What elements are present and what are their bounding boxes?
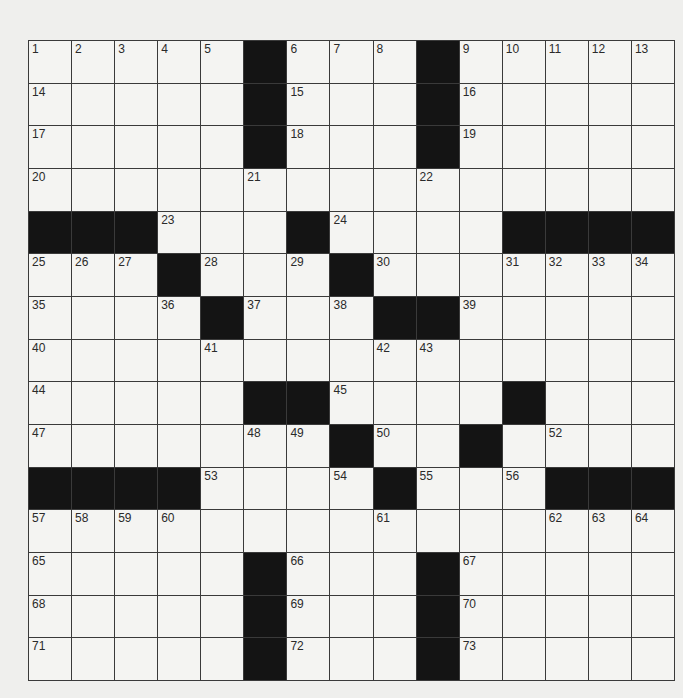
- grid-cell[interactable]: [460, 340, 502, 382]
- grid-cell[interactable]: [632, 340, 674, 382]
- grid-cell[interactable]: [115, 638, 157, 680]
- grid-cell[interactable]: [632, 553, 674, 595]
- grid-cell[interactable]: [503, 425, 545, 467]
- grid-cell[interactable]: 31: [503, 254, 545, 296]
- grid-cell[interactable]: 65: [29, 553, 71, 595]
- grid-cell[interactable]: [589, 382, 631, 424]
- grid-cell[interactable]: [503, 169, 545, 211]
- grid-cell[interactable]: [115, 297, 157, 339]
- grid-cell[interactable]: [632, 84, 674, 126]
- grid-cell[interactable]: [115, 596, 157, 638]
- grid-cell[interactable]: [72, 126, 114, 168]
- grid-cell[interactable]: [201, 638, 243, 680]
- grid-cell[interactable]: [503, 84, 545, 126]
- grid-cell[interactable]: 37: [244, 297, 286, 339]
- grid-cell[interactable]: [460, 254, 502, 296]
- grid-cell[interactable]: [115, 169, 157, 211]
- grid-cell[interactable]: [201, 553, 243, 595]
- grid-cell[interactable]: [201, 169, 243, 211]
- grid-cell[interactable]: 73: [460, 638, 502, 680]
- grid-cell[interactable]: [330, 126, 372, 168]
- grid-cell[interactable]: 16: [460, 84, 502, 126]
- grid-cell[interactable]: [201, 510, 243, 552]
- grid-cell[interactable]: [158, 553, 200, 595]
- grid-cell[interactable]: 28: [201, 254, 243, 296]
- grid-cell[interactable]: [589, 596, 631, 638]
- grid-cell[interactable]: 48: [244, 425, 286, 467]
- grid-cell[interactable]: 29: [287, 254, 329, 296]
- grid-cell[interactable]: 53: [201, 468, 243, 510]
- grid-cell[interactable]: [287, 169, 329, 211]
- grid-cell[interactable]: [330, 553, 372, 595]
- grid-cell[interactable]: 22: [417, 169, 459, 211]
- grid-cell[interactable]: 35: [29, 297, 71, 339]
- grid-cell[interactable]: [330, 169, 372, 211]
- grid-cell[interactable]: [201, 212, 243, 254]
- grid-cell[interactable]: [460, 468, 502, 510]
- grid-cell[interactable]: [503, 638, 545, 680]
- grid-cell[interactable]: [546, 297, 588, 339]
- grid-cell[interactable]: 54: [330, 468, 372, 510]
- grid-cell[interactable]: 52: [546, 425, 588, 467]
- grid-cell[interactable]: [158, 169, 200, 211]
- grid-cell[interactable]: 61: [374, 510, 416, 552]
- grid-cell[interactable]: [589, 84, 631, 126]
- grid-cell[interactable]: [589, 638, 631, 680]
- grid-cell[interactable]: 1: [29, 41, 71, 83]
- grid-cell[interactable]: [158, 425, 200, 467]
- grid-cell[interactable]: 38: [330, 297, 372, 339]
- grid-cell[interactable]: 11: [546, 41, 588, 83]
- grid-cell[interactable]: [546, 596, 588, 638]
- grid-cell[interactable]: [287, 340, 329, 382]
- grid-cell[interactable]: 66: [287, 553, 329, 595]
- grid-cell[interactable]: 9: [460, 41, 502, 83]
- grid-cell[interactable]: [632, 638, 674, 680]
- grid-cell[interactable]: 57: [29, 510, 71, 552]
- grid-cell[interactable]: [460, 382, 502, 424]
- grid-cell[interactable]: [632, 126, 674, 168]
- grid-cell[interactable]: [330, 84, 372, 126]
- grid-cell[interactable]: [460, 510, 502, 552]
- grid-cell[interactable]: [589, 126, 631, 168]
- grid-cell[interactable]: [632, 297, 674, 339]
- grid-cell[interactable]: 13: [632, 41, 674, 83]
- grid-cell[interactable]: 68: [29, 596, 71, 638]
- grid-cell[interactable]: 64: [632, 510, 674, 552]
- grid-cell[interactable]: [632, 596, 674, 638]
- grid-cell[interactable]: 36: [158, 297, 200, 339]
- grid-cell[interactable]: [632, 169, 674, 211]
- grid-cell[interactable]: 7: [330, 41, 372, 83]
- grid-cell[interactable]: [589, 169, 631, 211]
- grid-cell[interactable]: 4: [158, 41, 200, 83]
- grid-cell[interactable]: [158, 84, 200, 126]
- grid-cell[interactable]: 2: [72, 41, 114, 83]
- grid-cell[interactable]: [287, 510, 329, 552]
- grid-cell[interactable]: [374, 382, 416, 424]
- grid-cell[interactable]: 30: [374, 254, 416, 296]
- grid-cell[interactable]: [115, 382, 157, 424]
- grid-cell[interactable]: 19: [460, 126, 502, 168]
- grid-cell[interactable]: [201, 126, 243, 168]
- grid-cell[interactable]: 55: [417, 468, 459, 510]
- grid-cell[interactable]: 69: [287, 596, 329, 638]
- grid-cell[interactable]: [72, 553, 114, 595]
- grid-cell[interactable]: 72: [287, 638, 329, 680]
- grid-cell[interactable]: [417, 382, 459, 424]
- grid-cell[interactable]: [460, 212, 502, 254]
- grid-cell[interactable]: [546, 638, 588, 680]
- grid-cell[interactable]: 71: [29, 638, 71, 680]
- grid-cell[interactable]: [244, 340, 286, 382]
- grid-cell[interactable]: 44: [29, 382, 71, 424]
- grid-cell[interactable]: [244, 510, 286, 552]
- grid-cell[interactable]: 49: [287, 425, 329, 467]
- grid-cell[interactable]: [158, 382, 200, 424]
- grid-cell[interactable]: [374, 638, 416, 680]
- grid-cell[interactable]: 8: [374, 41, 416, 83]
- grid-cell[interactable]: [201, 596, 243, 638]
- grid-cell[interactable]: 39: [460, 297, 502, 339]
- grid-cell[interactable]: 34: [632, 254, 674, 296]
- grid-cell[interactable]: [158, 638, 200, 680]
- grid-cell[interactable]: [374, 126, 416, 168]
- grid-cell[interactable]: [244, 212, 286, 254]
- grid-cell[interactable]: [201, 425, 243, 467]
